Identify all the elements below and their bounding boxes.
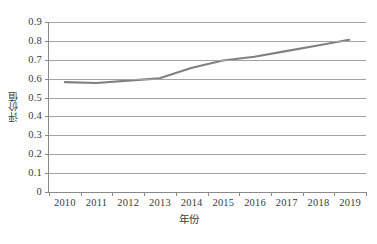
x-axis-tick	[271, 192, 272, 196]
x-axis-label: 2015	[212, 198, 234, 209]
y-axis-label: 0.4	[28, 111, 42, 122]
y-axis-tick	[45, 22, 49, 23]
gridline	[49, 116, 366, 117]
series-line-layer	[49, 22, 366, 192]
gridline	[49, 79, 366, 80]
x-axis-tick	[49, 192, 50, 196]
x-axis-tick	[208, 192, 209, 196]
y-axis-tick	[45, 154, 49, 155]
y-axis-tick	[45, 116, 49, 117]
x-axis-label: 2019	[339, 198, 361, 209]
gridline	[49, 98, 366, 99]
y-axis-label: 0.2	[28, 149, 42, 160]
x-axis-tick	[176, 192, 177, 196]
x-axis-label: 2013	[149, 198, 171, 209]
y-axis-label: 0	[37, 187, 42, 198]
y-axis-tick	[45, 135, 49, 136]
line-chart: 评价值 00.10.20.30.40.50.60.70.80.920102011…	[0, 0, 377, 244]
x-axis-tick	[144, 192, 145, 196]
gridline	[49, 154, 366, 155]
y-axis-label: 0.3	[28, 130, 42, 141]
y-axis-tick	[45, 98, 49, 99]
plot-area: 00.10.20.30.40.50.60.70.80.9201020112012…	[48, 22, 366, 193]
x-axis-tick	[81, 192, 82, 196]
series-line	[65, 40, 349, 83]
x-axis-label: 2018	[308, 198, 330, 209]
y-axis-label: 0.6	[28, 73, 42, 84]
y-axis-label: 0.8	[28, 36, 42, 47]
x-axis-label: 2010	[54, 198, 76, 209]
x-axis-label: 2011	[86, 198, 107, 209]
y-axis-title: 评价值	[9, 92, 23, 122]
gridline	[49, 173, 366, 174]
x-axis-title: 年份	[0, 214, 377, 225]
y-axis-label: 0.9	[28, 17, 42, 28]
y-axis-label: 0.5	[28, 92, 42, 103]
x-axis-tick	[366, 192, 367, 196]
y-axis-tick	[45, 41, 49, 42]
x-axis-label: 2014	[181, 198, 203, 209]
y-axis-tick	[45, 173, 49, 174]
gridline	[49, 60, 366, 61]
x-axis-label: 2016	[244, 198, 266, 209]
gridline	[49, 135, 366, 136]
gridline	[49, 41, 366, 42]
y-axis-tick	[45, 79, 49, 80]
y-axis-label: 0.1	[28, 168, 42, 179]
x-axis-tick	[303, 192, 304, 196]
gridline	[49, 22, 366, 23]
x-axis-label: 2017	[276, 198, 298, 209]
x-axis-tick	[112, 192, 113, 196]
x-axis-tick	[334, 192, 335, 196]
x-axis-label: 2012	[117, 198, 139, 209]
y-axis-label: 0.7	[28, 55, 42, 66]
y-axis-tick	[45, 60, 49, 61]
x-axis-tick	[239, 192, 240, 196]
